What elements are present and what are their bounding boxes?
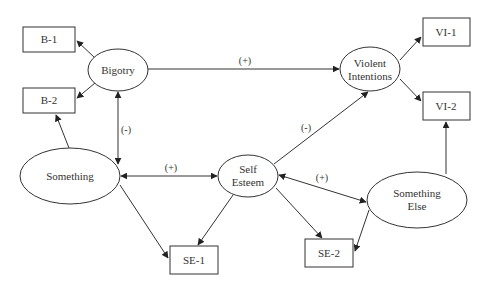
node-se1-label: SE-1	[183, 254, 205, 266]
node-se2: SE-2	[305, 239, 353, 267]
edge-label-something-selfesteem: (+)	[165, 162, 177, 174]
edge-something-b2	[56, 115, 69, 148]
node-bigotry: Bigotry	[88, 49, 148, 91]
edge-something-se1	[120, 185, 168, 258]
edge-label-selfesteem-somethingelse: (+)	[316, 172, 328, 184]
edge-bigotry-b2	[77, 83, 95, 98]
node-vi1-label: VI-1	[436, 26, 457, 38]
node-se2-label: SE-2	[318, 247, 340, 259]
node-something-else: Something Else	[367, 172, 467, 228]
node-violent-intentions: Violent Intentions	[340, 47, 400, 91]
node-b1-label: B-1	[41, 33, 58, 45]
node-b2: B-2	[23, 88, 75, 113]
node-self-esteem: Self Esteem	[218, 155, 278, 197]
edge-vi-vi1	[400, 37, 421, 60]
edge-label-bigotry-vi: (+)	[239, 55, 251, 67]
node-vi2-label: VI-2	[436, 100, 457, 112]
node-violent-intentions-label-2: Intentions	[348, 70, 392, 82]
node-vi2: VI-2	[423, 92, 470, 120]
node-vi1: VI-1	[423, 18, 470, 46]
edge-selfesteem-se2	[276, 188, 322, 238]
node-self-esteem-label-1: Self	[239, 163, 257, 175]
edge-selfesteem-se1	[198, 195, 233, 245]
edge-selfesteem-vi	[274, 92, 368, 164]
node-something-else-label-1: Something	[393, 187, 441, 199]
node-something-else-label-2: Else	[408, 200, 427, 212]
node-b2-label: B-2	[41, 94, 58, 106]
sem-diagram: (+) (-) (-) (+) (+) B-1 B-2 VI-1 VI-2 SE…	[0, 0, 490, 287]
node-something-label: Something	[46, 170, 94, 182]
node-b1: B-1	[23, 27, 75, 52]
node-bigotry-label: Bigotry	[101, 64, 135, 76]
node-violent-intentions-label-1: Violent	[354, 57, 386, 69]
node-something: Something	[20, 148, 120, 204]
node-self-esteem-label-2: Esteem	[232, 176, 265, 188]
edge-label-selfesteem-vi: (-)	[301, 122, 311, 134]
node-se1: SE-1	[170, 246, 218, 274]
edge-bigotry-b1	[77, 41, 95, 58]
edge-somethingelse-se2	[355, 210, 369, 251]
edge-label-bigotry-something: (-)	[121, 124, 131, 136]
edge-vi-vi2	[400, 79, 421, 101]
